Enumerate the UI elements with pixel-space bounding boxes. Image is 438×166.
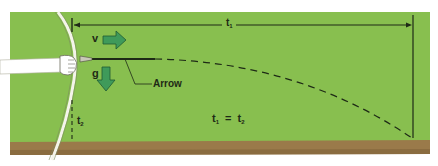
arrow-label: Arrow <box>153 79 182 89</box>
t2-left-subscript: 2 <box>80 121 83 127</box>
projectile-diagram: t1 v g Arrow t2 t1 = t2 <box>0 0 438 166</box>
diagram-canvas <box>0 0 438 166</box>
ground-shade <box>10 149 430 155</box>
eq-lhs-subscript: 1 <box>216 119 219 125</box>
t2-left-label: t2 <box>77 116 84 127</box>
arm <box>0 58 64 74</box>
t1-top-label: t1 <box>226 18 233 29</box>
gravity-label: g <box>92 68 99 79</box>
eq-rhs-subscript: 2 <box>241 119 244 125</box>
t1-top-subscript: 1 <box>229 23 232 29</box>
velocity-label: v <box>92 33 98 44</box>
eq-sign: = <box>225 112 231 124</box>
equation-label: t1 = t2 <box>212 113 245 125</box>
